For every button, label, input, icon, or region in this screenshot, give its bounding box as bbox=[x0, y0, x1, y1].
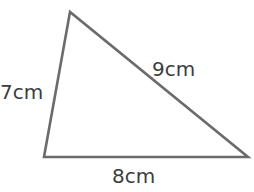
side-label-left: 7cm bbox=[0, 80, 43, 104]
side-label-hypotenuse: 9cm bbox=[152, 57, 195, 81]
side-label-base: 8cm bbox=[112, 164, 155, 188]
triangle-diagram: 7cm 9cm 8cm bbox=[0, 0, 254, 192]
triangle-shape bbox=[44, 12, 248, 157]
